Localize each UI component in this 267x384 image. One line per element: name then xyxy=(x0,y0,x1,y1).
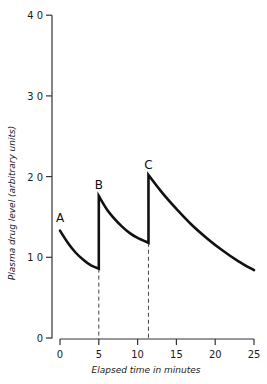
x-tick-label: 10 xyxy=(131,348,144,361)
plasma-drug-level-chart: 01 02 03 04 0 0510152025 ABC Plasma drug… xyxy=(0,0,267,384)
y-axis: 01 02 03 04 0 xyxy=(27,9,52,345)
dose-label-b: B xyxy=(95,178,103,192)
dose-reference-lines xyxy=(99,243,149,339)
x-tick-label: 25 xyxy=(248,348,261,361)
x-axis-title: Elapsed time in minutes xyxy=(92,365,201,375)
y-tick-label: 2 0 xyxy=(27,171,43,184)
dose-point-labels: ABC xyxy=(56,158,153,225)
y-tick-label: 3 0 xyxy=(27,90,43,103)
y-axis-title: Plasma drug level (arbitrary units) xyxy=(7,126,17,280)
dose-label-a: A xyxy=(56,211,65,225)
x-tick-label: 15 xyxy=(170,348,183,361)
drug-level-curve xyxy=(60,175,254,270)
y-tick-label: 0 xyxy=(37,332,43,345)
x-tick-label: 5 xyxy=(96,348,102,361)
y-tick-label: 1 0 xyxy=(27,251,43,264)
plasma-level-line xyxy=(60,175,254,270)
x-tick-label: 20 xyxy=(209,348,222,361)
x-tick-label: 0 xyxy=(57,348,63,361)
y-tick-label: 4 0 xyxy=(27,9,43,22)
x-axis: 0510152025 xyxy=(57,339,260,361)
dose-label-c: C xyxy=(144,158,152,172)
